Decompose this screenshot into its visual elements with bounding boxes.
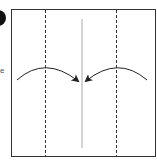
paper-square — [12, 10, 156, 157]
fold-diagram — [0, 0, 157, 167]
side-text-fragment: e — [0, 66, 4, 75]
step-badge — [0, 10, 6, 26]
